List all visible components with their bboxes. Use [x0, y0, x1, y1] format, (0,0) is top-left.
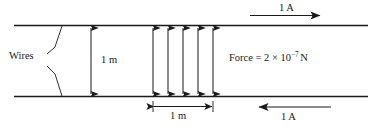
- force-exponent: −7: [291, 51, 299, 59]
- force-equation-label: Force = 2 × 10−7N: [229, 53, 308, 64]
- current-label-top: 1 A: [279, 3, 294, 14]
- separation-label: 1 m: [101, 55, 117, 66]
- current-label-bottom: 1 A: [281, 112, 296, 123]
- wires-label: Wires: [9, 51, 34, 62]
- diagram-canvas: [0, 0, 382, 127]
- physics-diagram: Wires 1 m 1 m Force = 2 × 10−7N 1 A 1 A: [0, 0, 382, 127]
- force-arrow-group: [153, 28, 213, 94]
- force-unit: N: [299, 52, 308, 63]
- wires-leader-bottom: [47, 66, 62, 96]
- wires-leader-top: [47, 26, 62, 54]
- force-equation-base: Force = 2 × 10: [229, 52, 291, 63]
- span-length-label: 1 m: [170, 111, 186, 122]
